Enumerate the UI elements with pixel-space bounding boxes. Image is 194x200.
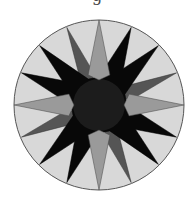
mariners-compass-figure xyxy=(0,0,194,200)
center-disc xyxy=(73,79,125,131)
